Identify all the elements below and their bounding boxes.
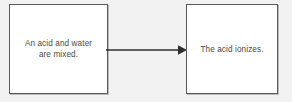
flowchart-diagram: An acid and water are mixed. The acid io… (0, 0, 292, 102)
flowchart-node-label: The acid ionizes. (195, 44, 268, 55)
flowchart-arrow-connector (106, 40, 190, 60)
flowchart-node-label: An acid and water are mixed. (20, 38, 97, 60)
flowchart-node-acid-water-mixed[interactable]: An acid and water are mixed. (9, 4, 108, 94)
flowchart-node-acid-ionizes[interactable]: The acid ionizes. (186, 4, 278, 94)
